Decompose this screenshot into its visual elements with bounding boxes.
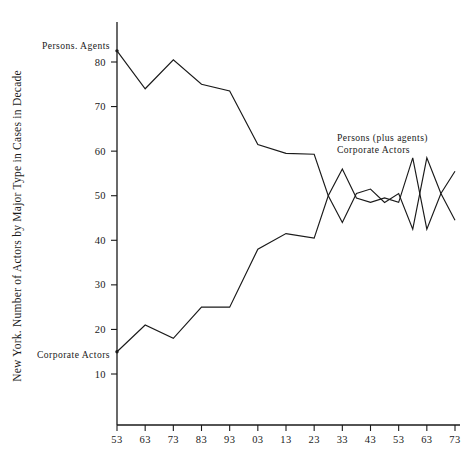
series-start-marker — [115, 49, 118, 52]
x-tick-label: 93 — [224, 434, 235, 445]
y-tick-label: 80 — [95, 57, 106, 68]
chart-container: New York. Number of Actors by Major Type… — [0, 0, 474, 453]
legend-entry-corporate: Corporate Actors — [337, 144, 410, 155]
x-tick-label: 83 — [196, 434, 207, 445]
y-axis-title: New York. Number of Actors by Major Type… — [11, 70, 24, 382]
y-tick-label: 60 — [95, 146, 106, 157]
x-tick-label: 73 — [168, 434, 179, 445]
x-tick-label: 23 — [309, 434, 320, 445]
y-tick-label: 40 — [95, 235, 106, 246]
y-tick-label: 10 — [95, 369, 106, 380]
x-tick-label: 73 — [449, 434, 460, 445]
y-tick-label: 30 — [95, 279, 106, 290]
data-series-group — [115, 49, 455, 353]
x-tick-label: 33 — [337, 434, 348, 445]
y-tick-label: 70 — [95, 101, 106, 112]
x-tick-label: 43 — [365, 434, 376, 445]
x-tick-label: 53 — [393, 434, 404, 445]
series-label-corporate: Corporate Actors — [37, 349, 110, 360]
y-tick-label: 50 — [95, 190, 106, 201]
series-start-marker — [115, 350, 118, 353]
legend-entry-persons: Persons (plus agents) — [337, 132, 428, 144]
series-line-corporate — [117, 158, 455, 352]
y-axis-ticks: 1020304050607080 — [95, 57, 117, 380]
x-tick-label: 03 — [252, 434, 263, 445]
x-tick-label: 63 — [140, 434, 151, 445]
y-tick-label: 20 — [95, 324, 106, 335]
series-label-persons: Persons. Agents — [42, 40, 110, 51]
x-tick-label: 13 — [280, 434, 291, 445]
x-axis-ticks: 53637383930313233343536373 — [111, 425, 460, 445]
x-tick-label: 63 — [421, 434, 432, 445]
x-tick-label: 53 — [111, 434, 122, 445]
line-chart: New York. Number of Actors by Major Type… — [0, 0, 474, 453]
